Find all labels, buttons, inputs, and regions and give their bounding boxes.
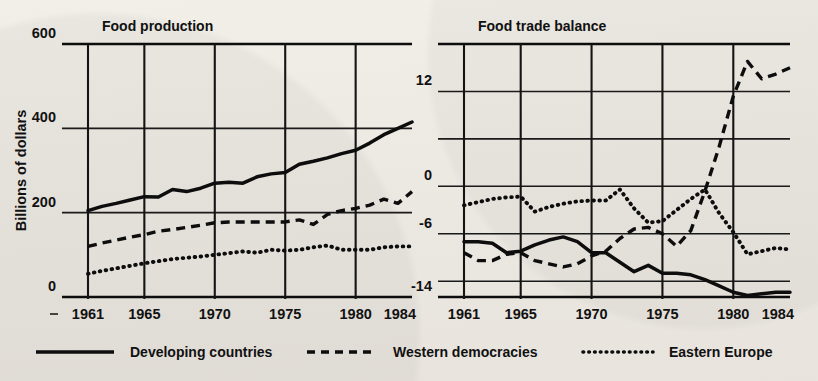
legend: Developing countriesWestern democraciesE… — [36, 344, 773, 360]
legend-label: Western democracies — [393, 344, 538, 360]
y-tick-label: 600 — [32, 25, 56, 41]
legend-item: Developing countries — [36, 344, 273, 360]
chart-panel-food-trade-balance: Food trade balance120-6-1419611965197019… — [411, 18, 794, 322]
legend-label: Eastern Europe — [669, 344, 773, 360]
x-tick-label: 1984 — [762, 306, 794, 322]
y-tick-label: 200 — [32, 194, 56, 210]
x-tick-label: 1965 — [128, 306, 160, 322]
x-tick-label: 1965 — [505, 306, 537, 322]
chart-title: Food trade balance — [478, 18, 607, 34]
series-line-developing-countries — [88, 122, 412, 211]
y-tick-label: -14 — [411, 278, 432, 294]
x-tick-label: 1975 — [646, 306, 678, 322]
figure-container: Food production0200400600196119651970197… — [0, 0, 818, 381]
x-tick-label: 1961 — [448, 306, 480, 322]
x-tick-label: 1970 — [575, 306, 607, 322]
series-line-eastern-europe — [88, 246, 412, 274]
x-tick-label: 1980 — [340, 306, 372, 322]
x-tick-label: 1980 — [717, 306, 749, 322]
legend-label: Developing countries — [130, 344, 273, 360]
charts-svg: Food production0200400600196119651970197… — [0, 0, 818, 381]
legend-item: Western democracies — [307, 344, 538, 360]
chart-panel-food-production: Food production0200400600196119651970197… — [13, 18, 416, 322]
x-tick-label: 1975 — [269, 306, 301, 322]
y-tick-label: 400 — [32, 109, 56, 125]
legend-item: Eastern Europe — [583, 344, 773, 360]
y-tick-label: -6 — [419, 215, 432, 231]
chart-title: Food production — [102, 18, 213, 34]
x-tick-label: 1984 — [384, 306, 416, 322]
y-tick-label: 12 — [416, 72, 432, 88]
x-tick-label: 1970 — [199, 306, 231, 322]
series-line-eastern-europe — [464, 189, 790, 254]
x-tick-label: 1961 — [72, 306, 104, 322]
y-tick-label: 0 — [48, 278, 56, 294]
y-tick-label: 0 — [424, 167, 432, 183]
y-axis-title: Billions of dollars — [13, 110, 29, 232]
